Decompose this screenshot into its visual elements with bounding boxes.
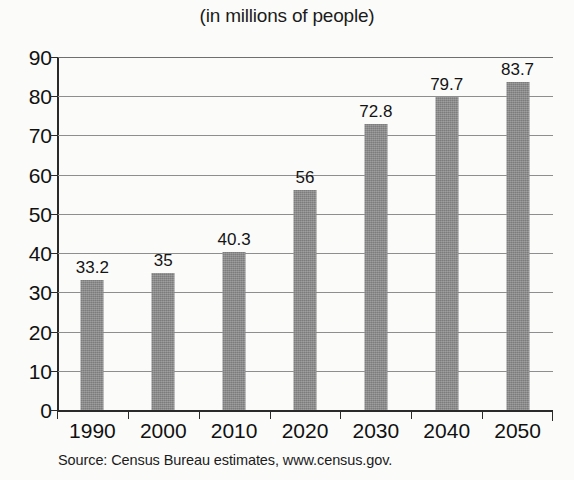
x-tick-label-2040: 2040 [411, 418, 482, 443]
y-tick-label-40: 40 [0, 243, 52, 264]
y-tick-label-70: 70 [0, 125, 52, 146]
y-tick-label-80: 80 [0, 86, 52, 107]
x-tick-label-2050: 2050 [482, 418, 553, 443]
x-tick-label-1990: 1990 [57, 418, 128, 443]
bar-2000[interactable] [152, 273, 175, 410]
bar-2040[interactable] [435, 97, 458, 410]
bar-1990[interactable] [81, 280, 104, 410]
bar-slot-2000: 35 [128, 57, 199, 410]
y-tick-label-0: 0 [0, 400, 52, 421]
bar-slot-2040: 79.7 [411, 57, 482, 410]
bar-value-label-1990: 33.2 [76, 259, 109, 276]
bar-value-label-2020: 56 [295, 169, 314, 186]
y-tick-label-10: 10 [0, 360, 52, 381]
bar-value-label-2010: 40.3 [218, 231, 251, 248]
x-tick-label-2030: 2030 [340, 418, 411, 443]
bar-value-label-2000: 35 [154, 252, 173, 269]
x-axis-tick-labels: 1990200020102020203020402050 [57, 418, 553, 448]
bar-value-label-2040: 79.7 [430, 76, 463, 93]
x-tick-label-2000: 2000 [128, 418, 199, 443]
plot-area: 33.23540.35672.879.783.7 [57, 57, 553, 410]
source-note: Source: Census Bureau estimates, www.cen… [58, 452, 392, 468]
bar-chart-figure: (in millions of people) 0102030405060708… [0, 0, 574, 480]
bar-slot-2030: 72.8 [340, 57, 411, 410]
bar-value-label-2030: 72.8 [359, 103, 392, 120]
y-tick-label-30: 30 [0, 282, 52, 303]
y-tick-label-60: 60 [0, 164, 52, 185]
bar-value-label-2050: 83.7 [501, 61, 534, 78]
bar-slot-2050: 83.7 [482, 57, 553, 410]
y-tick-label-50: 50 [0, 203, 52, 224]
bar-slot-2020: 56 [270, 57, 341, 410]
bar-slot-2010: 40.3 [199, 57, 270, 410]
bar-2030[interactable] [364, 124, 387, 410]
chart-title: (in millions of people) [0, 5, 574, 27]
y-tick-label-90: 90 [0, 47, 52, 68]
y-axis-tick-labels: 0102030405060708090 [0, 57, 52, 410]
x-tick-label-2010: 2010 [199, 418, 270, 443]
x-tick-label-2020: 2020 [270, 418, 341, 443]
bar-2050[interactable] [506, 82, 529, 410]
bar-2020[interactable] [293, 190, 316, 410]
bar-2010[interactable] [223, 252, 246, 410]
y-tick-label-20: 20 [0, 321, 52, 342]
bar-slot-1990: 33.2 [57, 57, 128, 410]
